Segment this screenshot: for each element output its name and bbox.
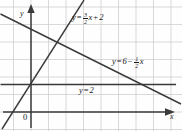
origin-label: 0 <box>23 113 27 122</box>
equation-label-line3: y=2 <box>79 86 94 95</box>
line3-constant: 2 <box>90 85 94 95</box>
line2-frac-denominator: 2 <box>134 63 139 69</box>
x-axis <box>3 108 175 115</box>
line1-constant: 2 <box>99 12 103 22</box>
line1-lhs: y <box>72 12 76 22</box>
line1-variable: x <box>89 12 93 22</box>
line2-fraction: 12 <box>134 56 139 69</box>
line1-frac-denominator: 2 <box>83 19 88 25</box>
up-arrow-icon <box>27 4 34 13</box>
line1-equals: = <box>77 12 82 22</box>
line1-frac-numerator: 3 <box>83 12 88 19</box>
x-axis-label: x <box>170 113 174 121</box>
line1-fraction: 32 <box>83 12 88 25</box>
line1-operator: + <box>93 12 98 22</box>
line2-constant: 6 <box>123 56 127 66</box>
line2-equals: = <box>117 56 122 66</box>
line3-equals: = <box>84 85 89 95</box>
line3-lhs: y <box>79 85 83 95</box>
line2-lhs: y <box>112 56 116 66</box>
line2-variable: x <box>140 56 144 66</box>
line2-operator: − <box>128 56 133 66</box>
line2-frac-numerator: 1 <box>134 56 139 63</box>
y-axis-label: y <box>20 10 24 18</box>
graph-figure: y x 0 y=32x+2 y=6−12x y=2 <box>0 0 182 131</box>
equation-label-line2: y=6−12x <box>112 56 143 69</box>
equation-label-line1: y=32x+2 <box>72 12 103 25</box>
y-axis <box>27 4 34 128</box>
